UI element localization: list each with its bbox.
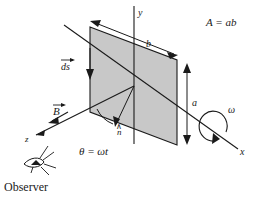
angle-label: θ = ωt — [79, 145, 109, 157]
area-label: A = ab — [205, 16, 237, 28]
omega-label: ω — [228, 104, 235, 115]
physics-diagram-rotating-loop: y x z A = ab b a ds B n ∧ θ = ωt ω Obser… — [0, 0, 256, 198]
b-field-label: B — [53, 105, 60, 117]
side-a-label: a — [192, 97, 197, 108]
observer-label: Observer — [4, 180, 48, 194]
normal-hat-accent: ∧ — [116, 122, 122, 131]
x-axis-label: x — [239, 146, 245, 157]
ds-vector-label: ds — [61, 61, 70, 72]
side-b-label: b — [146, 38, 151, 49]
y-axis-label: y — [137, 7, 143, 18]
normal-label-group: n ∧ — [116, 122, 122, 137]
z-axis-label: z — [24, 134, 29, 144]
